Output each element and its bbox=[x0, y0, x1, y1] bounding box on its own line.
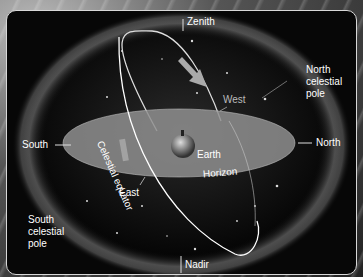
south-label: South bbox=[22, 139, 48, 151]
celestial-sphere-panel: Zenith Nadir South North West East Earth… bbox=[6, 10, 357, 275]
nadir-label: Nadir bbox=[185, 259, 209, 271]
zenith-label: Zenith bbox=[187, 16, 215, 28]
south-celestial-pole-label: South celestial pole bbox=[28, 214, 64, 250]
observer-figure bbox=[181, 130, 184, 136]
west-label: West bbox=[223, 94, 246, 106]
earth-globe bbox=[171, 134, 195, 158]
north-celestial-pole-label: North celestial pole bbox=[306, 64, 342, 100]
north-label: North bbox=[316, 137, 340, 149]
earth-label: Earth bbox=[197, 149, 221, 161]
